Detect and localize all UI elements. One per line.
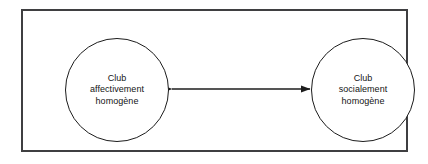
diagram-frame: Club affectivement homogène Club sociale… <box>21 9 408 152</box>
node-club-affectivement-homogene[interactable]: Club affectivement homogène <box>65 38 169 142</box>
diagram-figure: Club affectivement homogène Club sociale… <box>0 0 428 164</box>
node-label: Club socialement homogène <box>335 73 392 107</box>
bidirectional-arrow <box>163 73 319 105</box>
node-club-socialement-homogene[interactable]: Club socialement homogène <box>311 38 415 142</box>
node-label: Club affectivement homogène <box>86 73 148 107</box>
